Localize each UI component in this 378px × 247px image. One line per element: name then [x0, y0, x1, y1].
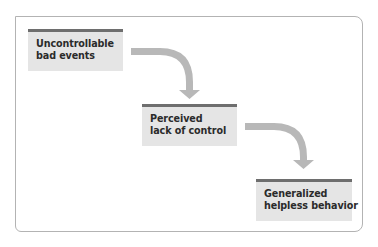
node-uncontrollable-bad-events: Uncontrollable bad events — [28, 29, 123, 71]
curved-arrow-icon — [245, 123, 314, 169]
node-generalized-helpless-behavior: Generalized helpless behavior — [256, 179, 352, 221]
node-label-line: Generalized — [264, 188, 352, 200]
node-label-line: helpless behavior — [264, 200, 352, 212]
node-label-line: Uncontrollable — [36, 38, 123, 50]
node-label-line: lack of control — [150, 125, 237, 137]
node-label-line: bad events — [36, 50, 123, 62]
node-label-line: Perceived — [150, 113, 237, 125]
node-perceived-lack-of-control: Perceived lack of control — [142, 104, 237, 146]
curved-arrow-icon — [131, 48, 200, 99]
